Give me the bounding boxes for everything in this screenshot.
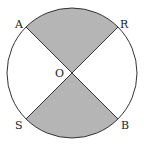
circle-diagram: A R O S B (0, 0, 144, 145)
label-R: R (120, 18, 129, 31)
label-A: A (14, 18, 24, 31)
label-O: O (55, 67, 64, 80)
label-B: B (121, 119, 129, 132)
label-S: S (15, 119, 23, 132)
